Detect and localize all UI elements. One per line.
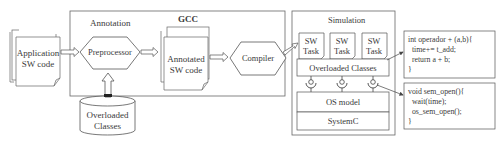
application-sw-code-doc: Application SW code <box>10 28 60 86</box>
code-line: int operador + (a,b){ <box>408 35 473 44</box>
interface-connector-2 <box>337 76 347 92</box>
arrow-db-to-preprocessor <box>102 73 114 97</box>
annotated-sw-code-doc: Annotated SW code <box>161 27 209 90</box>
simulation-label: Simulation <box>328 15 366 25</box>
application-sw-code-line2: SW code <box>22 59 55 69</box>
overloaded-classes-db-line2: Classes <box>94 121 121 131</box>
arrow-preprocessor-to-annotated <box>141 48 158 57</box>
sw-task-1-line2: Task <box>303 46 320 56</box>
compiler-node: Compiler <box>230 42 286 75</box>
sw-task-1: SW Task <box>299 33 324 59</box>
sw-task-1-line1: SW <box>305 36 318 46</box>
interface-connector-3 <box>368 76 378 92</box>
compiler-label: Compiler <box>242 53 274 63</box>
code-line: wait(time); <box>408 97 447 106</box>
preprocessor-node: Preprocessor <box>80 37 140 69</box>
sw-task-3-line2: Task <box>366 46 383 56</box>
systemc-label: SystemC <box>328 116 359 126</box>
os-model-block: OS model <box>297 92 389 112</box>
systemc-block: SystemC <box>297 112 389 130</box>
overloaded-classes-db-line1: Overloaded <box>87 110 129 120</box>
application-sw-code-line1: Application <box>17 48 60 58</box>
interface-connector-1 <box>306 76 316 92</box>
sw-task-2-line2: Task <box>334 46 351 56</box>
sw-task-2: SW Task <box>330 33 355 59</box>
preprocessor-label: Preprocessor <box>88 47 132 57</box>
os-model-label: OS model <box>326 97 361 107</box>
overloaded-classes-layer: Overloaded Classes <box>297 59 389 76</box>
sw-task-2-line1: SW <box>336 36 349 46</box>
arrow-annotated-to-compiler <box>210 53 228 62</box>
sw-task-3-line1: SW <box>368 36 381 46</box>
code-line: os_sem_open(); <box>408 107 462 116</box>
annotation-label: Annotation <box>90 18 131 28</box>
code-box-sem-open: void sem_open(){ wait(time); os_sem_open… <box>404 83 495 129</box>
code-line: time+= t_add; <box>408 45 456 54</box>
diagram-canvas: Annotation GCC Simulation Application SW… <box>0 0 498 141</box>
overloaded-classes-layer-label: Overloaded Classes <box>309 63 376 73</box>
code-line: void sem_open(){ <box>408 87 465 96</box>
sw-task-3: SW Task <box>362 33 387 59</box>
gcc-label: GCC <box>178 14 198 24</box>
annotated-sw-code-line2: SW code <box>170 65 203 75</box>
overloaded-classes-database: Overloaded Classes <box>80 96 135 135</box>
code-line: } <box>408 117 412 126</box>
code-box-operator: int operador + (a,b){ time+= t_add; retu… <box>404 31 495 78</box>
code-line: } <box>408 65 412 74</box>
annotated-sw-code-line1: Annotated <box>167 54 205 64</box>
code-line: return a + b; <box>408 55 450 64</box>
